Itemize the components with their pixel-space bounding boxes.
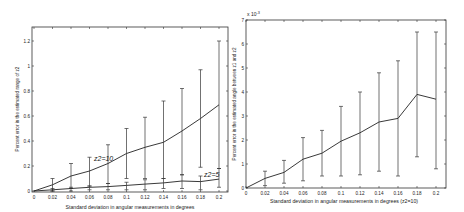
x-tick-label: 0.18	[196, 195, 205, 200]
y-tick-label: 0	[27, 189, 30, 194]
y-tick-label: 4	[241, 90, 244, 95]
annotation-z2-5: z2=5	[203, 171, 219, 178]
x-tick-label: 0.12	[141, 195, 150, 200]
right-plot-frame	[246, 20, 446, 188]
x-tick-label: 0.1	[338, 191, 345, 196]
right-scale-label: x 10-3	[247, 11, 260, 18]
x-tick-label: 0.14	[159, 195, 168, 200]
x-tick-label: 0.18	[413, 191, 422, 196]
x-tick-label: 0.14	[375, 191, 384, 196]
x-tick-label: 0.04	[280, 191, 289, 196]
right-chart: 00.020.040.060.080.10.120.140.160.180.2 …	[232, 11, 446, 205]
left-series	[34, 41, 221, 191]
y-tick-label: 0.4	[24, 139, 31, 144]
x-tick-label: 0.06	[299, 191, 308, 196]
y-tick-label: 1	[241, 162, 244, 167]
y-tick-label: 0.8	[24, 89, 31, 94]
x-tick-label: 0.16	[394, 191, 403, 196]
left-y-axis-label: Percent error in the estimated range of …	[15, 66, 20, 151]
y-tick-label: 6	[241, 42, 244, 47]
x-tick-label: 0.1	[123, 195, 130, 200]
right-y-axis-label: Percent error in the estimated angle bet…	[232, 47, 237, 160]
x-tick-label: 0.02	[261, 191, 270, 196]
y-tick-label: 7	[241, 18, 244, 23]
y-tick-label: 0	[241, 186, 244, 191]
x-tick-label: 0.04	[67, 195, 76, 200]
x-tick-label: 0.08	[318, 191, 327, 196]
x-tick-label: 0.02	[48, 195, 57, 200]
annotation-z2-10: z2=10	[93, 155, 113, 162]
series-angle-error-z2-10-	[246, 32, 438, 188]
right-x-axis-ticks: 00.020.040.060.080.10.120.140.160.180.2	[245, 20, 440, 196]
x-tick-label: 0	[33, 195, 36, 200]
y-tick-label: 1.2	[24, 39, 31, 44]
x-tick-label: 0	[245, 191, 248, 196]
y-tick-label: 0.2	[24, 164, 31, 169]
y-tick-label: 3	[241, 114, 244, 119]
left-chart: 00.020.040.060.080.10.120.140.160.180.2 …	[15, 27, 228, 210]
y-tick-label: 0.6	[24, 114, 31, 119]
x-tick-label: 0.06	[85, 195, 94, 200]
figure: 00.020.040.060.080.10.120.140.160.180.2 …	[0, 0, 464, 212]
x-tick-label: 0.16	[178, 195, 187, 200]
left-x-axis-ticks: 00.020.040.060.080.10.120.140.160.180.2	[33, 27, 223, 200]
x-tick-label: 0.08	[104, 195, 113, 200]
right-y-axis-ticks: 01234567	[241, 18, 446, 191]
series-z2-10	[34, 41, 221, 191]
series-z2-5	[34, 169, 221, 192]
y-tick-label: 5	[241, 66, 244, 71]
left-y-axis-ticks: 00.20.40.60.811.2	[24, 39, 228, 194]
right-scale-exponent: -3	[256, 11, 259, 15]
x-tick-label: 0.12	[356, 191, 365, 196]
right-x-axis-label: Standard deviation in angular measuremen…	[270, 198, 418, 204]
left-x-axis-label: Standard deviation in angular measuremen…	[66, 204, 195, 210]
right-series	[246, 32, 438, 188]
x-tick-label: 0.2	[216, 195, 223, 200]
x-tick-label: 0.2	[433, 191, 440, 196]
y-tick-label: 1	[27, 64, 30, 69]
y-tick-label: 2	[241, 138, 244, 143]
right-scale-base: x 10	[247, 11, 257, 17]
